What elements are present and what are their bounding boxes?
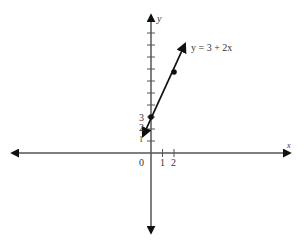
x-tick-label-1: 1 [160,157,165,168]
equation-label: y = 3 + 2x [191,42,232,53]
y-tick-label-2: 2 [139,122,144,133]
graph-canvas: y x y = 3 + 2x 0 1 2 3 2 1 [0,0,305,242]
x-axis-label: x [286,141,291,150]
origin-label: 0 [139,157,144,168]
y-tick-label-1: 1 [139,135,143,144]
function-line [143,44,185,136]
point-2-7 [171,69,177,75]
x-tick-label-2: 2 [171,157,176,168]
point-0-3 [148,114,154,120]
y-axis-label: y [156,13,162,24]
